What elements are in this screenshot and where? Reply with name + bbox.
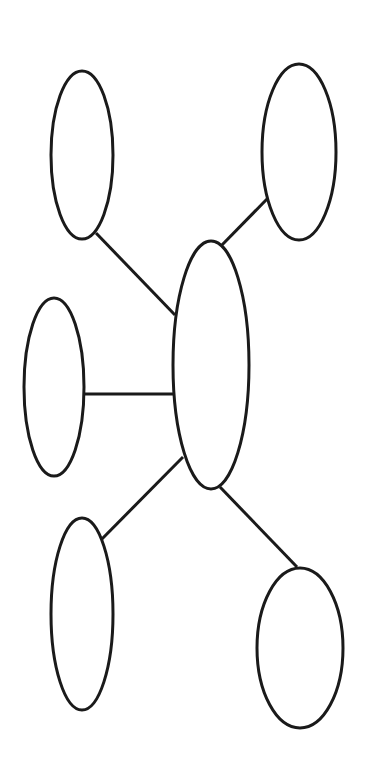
bubble-middle-left bbox=[24, 298, 84, 476]
ellipse-shape bbox=[51, 518, 113, 710]
ellipse-shape bbox=[51, 71, 113, 239]
center-bubble bbox=[173, 241, 249, 489]
bubble-nodes bbox=[24, 64, 343, 728]
connector-bottom-right bbox=[220, 487, 297, 567]
ellipse-shape bbox=[24, 298, 84, 476]
bubble-top-left bbox=[51, 71, 113, 239]
bubble-bottom-right bbox=[257, 568, 343, 728]
ellipse-shape bbox=[257, 568, 343, 728]
bubble-map-diagram bbox=[0, 0, 370, 757]
connector-top-left bbox=[96, 233, 175, 315]
bubble-bottom-left bbox=[51, 518, 113, 710]
ellipse-shape bbox=[262, 64, 336, 240]
connector-bottom-left bbox=[96, 457, 183, 545]
ellipse-shape bbox=[173, 241, 249, 489]
connector-top-right bbox=[220, 199, 267, 247]
bubble-top-right bbox=[262, 64, 336, 240]
